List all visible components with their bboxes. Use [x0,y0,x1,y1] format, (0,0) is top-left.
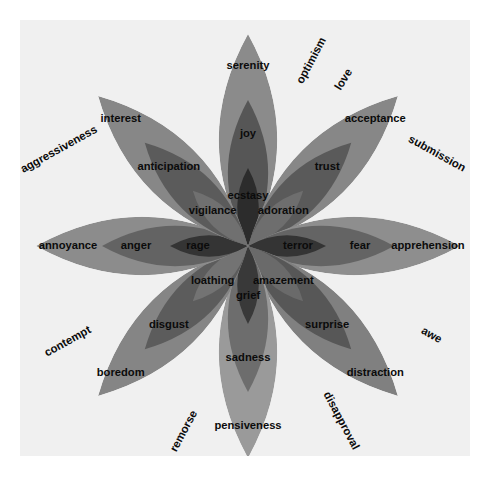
emotion-label-ecstasy: ecstasy [227,189,269,201]
emotion-label-surprise: surprise [305,318,349,330]
emotion-label-vigilance: vigilance [189,204,237,216]
emotion-label-acceptance: acceptance [345,112,406,124]
emotion-label-distraction: distraction [347,366,404,378]
emotion-label-rage: rage [186,239,210,251]
plutchik-wheel-svg: serenityjoyecstasyacceptancetrustadorati… [20,20,470,456]
emotion-wheel-figure: serenityjoyecstasyacceptancetrustadorati… [20,20,470,456]
emotion-label-terror: terror [283,239,313,251]
emotion-label-serenity: serenity [227,59,271,71]
emotion-label-loathing: loathing [191,274,235,286]
emotion-label-trust: trust [315,160,340,172]
emotion-label-sadness: sadness [226,351,271,363]
emotion-label-pensiveness: pensiveness [214,419,281,431]
emotion-label-fear: fear [350,239,371,251]
emotion-label-joy: joy [239,127,257,139]
emotion-label-boredom: boredom [97,366,145,378]
emotion-label-adoration: adoration [258,204,309,216]
emotion-label-anticipation: anticipation [137,160,200,172]
emotion-label-interest: interest [101,112,142,124]
emotion-label-disgust: disgust [149,318,189,330]
emotion-label-annoyance: annoyance [39,239,97,251]
emotion-label-anger: anger [121,239,152,251]
emotion-label-apprehension: apprehension [391,239,465,251]
emotion-label-grief: grief [236,289,261,301]
emotion-label-amazement: amazement [253,274,314,286]
